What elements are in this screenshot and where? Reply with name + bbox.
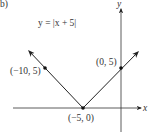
point-right: [119, 66, 123, 70]
left-ray: [29, 51, 83, 108]
point-vertex: [81, 106, 85, 110]
y-axis-label: y: [116, 0, 122, 9]
point-left: [43, 66, 47, 70]
equation-label: y = |x + 5|: [38, 18, 76, 28]
x-axis-label: x: [142, 103, 148, 113]
abs-value-graph: b) y = |x + 5| y x (−10, 5) (−5, 0) (0, …: [0, 0, 148, 135]
panel-label: b): [0, 0, 8, 10]
point-vertex-label: (−5, 0): [68, 113, 94, 124]
point-left-label: (−10, 5): [10, 66, 41, 77]
point-right-label: (0, 5): [96, 57, 117, 68]
